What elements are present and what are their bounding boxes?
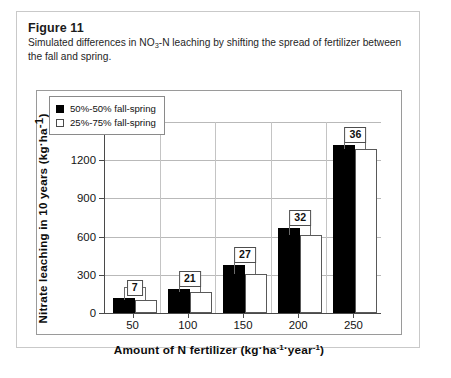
x-axis-tick-label: 100 — [178, 319, 197, 331]
y-axis-title-dot: · — [35, 142, 48, 146]
chart-legend: 50%-50% fall-spring 25%-75% fall-spring — [49, 96, 165, 135]
y-axis-tick-label: 0 — [90, 307, 96, 319]
plot-area: 0300600900120015007502110027150322003625… — [105, 122, 381, 313]
bar-filled[interactable] — [333, 145, 355, 313]
y-axis-tick-label: 1200 — [71, 154, 96, 166]
legend-item: 25%-75% fall-spring — [56, 116, 156, 129]
x-axis-tick — [298, 313, 299, 318]
x-axis-title-sup2: -1 — [313, 343, 320, 352]
x-axis-tick — [133, 313, 134, 318]
x-axis-title: Amount of N fertilizer (kg·ha-1·year-1) — [37, 343, 401, 357]
filled-square-icon — [56, 105, 64, 113]
open-square-icon — [56, 119, 64, 127]
y-axis-title-unit: ha — [37, 128, 50, 142]
figure-page: Figure 11 Simulated differences in NO3-N… — [0, 0, 451, 378]
x-axis-title-sup1: -1 — [277, 343, 284, 352]
y-axis-title-main: Nitrate leaching in 10 years (kg — [37, 146, 50, 323]
y-axis-title: Nitrate leaching in 10 years (kg·ha-1) — [35, 122, 51, 314]
difference-label: 36 — [344, 127, 366, 143]
x-axis-tick-label: 250 — [344, 319, 363, 331]
y-axis-tick-label: 300 — [77, 269, 96, 281]
figure-title: Figure 11 — [28, 21, 410, 35]
legend-item-label: 25%-75% fall-spring — [70, 117, 156, 128]
x-axis-title-unit1: ha — [262, 343, 276, 357]
y-axis-tick — [99, 313, 105, 314]
y-axis-title-sup: -1 — [33, 117, 46, 128]
caption-text-pre: Simulated differences in NO — [28, 37, 155, 48]
x-axis-title-unit2: year — [288, 343, 313, 357]
x-axis-tick-label: 200 — [289, 319, 308, 331]
x-axis-title-dot2: · — [284, 342, 288, 354]
caption-subscript: 3 — [155, 41, 159, 50]
x-axis-tick — [188, 313, 189, 318]
bar-open[interactable] — [355, 149, 377, 313]
figure-header: Figure 11 Simulated differences in NO3-N… — [28, 21, 410, 63]
chart-frame: Nitrate leaching in 10 years (kg·ha-1) 0… — [36, 90, 402, 335]
figure-card: Figure 11 Simulated differences in NO3-N… — [16, 11, 420, 348]
x-axis-tick — [353, 313, 354, 318]
legend-item-label: 50%-50% fall-spring — [70, 103, 156, 114]
x-axis-title-dot1: · — [259, 342, 263, 354]
x-axis-tick-label: 50 — [126, 319, 139, 331]
x-axis-tick-label: 150 — [233, 319, 252, 331]
y-axis-tick-label: 900 — [77, 192, 96, 204]
x-axis-title-close: ) — [320, 343, 324, 357]
bar-group: 36 — [105, 122, 381, 313]
x-axis-title-main: Amount of N fertilizer (kg — [114, 343, 259, 357]
y-axis-tick-label: 600 — [77, 231, 96, 243]
x-axis-tick — [243, 313, 244, 318]
legend-item: 50%-50% fall-spring — [56, 102, 156, 115]
plot-inner: 0300600900120015007502110027150322003625… — [105, 122, 381, 313]
figure-caption: Simulated differences in NO3-N leaching … — [28, 37, 410, 63]
